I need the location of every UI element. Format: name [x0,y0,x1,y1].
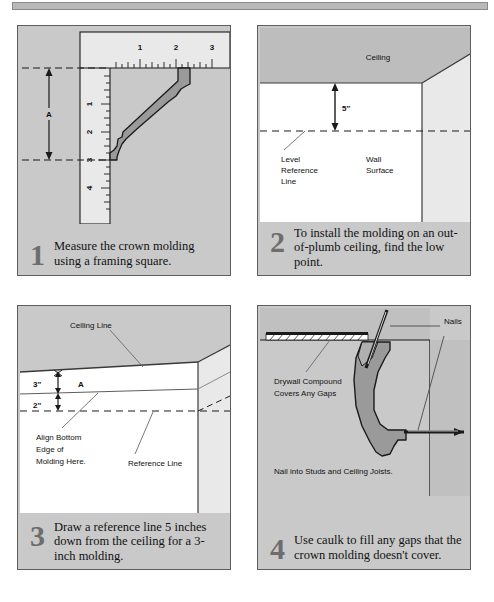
align-note-line-3: Molding Here. [36,457,86,466]
dimension-5in-label: 5" [342,104,350,113]
caption-text-2: To install the molding on an out-of-plum… [266,226,462,270]
ruler-v-tick-2: 2 [85,129,94,134]
drywall-note-line-2: Covers Any Gaps [274,389,336,398]
ruler-v-tick-1: 1 [85,101,94,106]
level-ref-line-label-1: Level [281,155,300,164]
illustration-page: 1 2 3 [0,0,494,602]
align-note-line-1: Align Bottom [36,433,82,442]
room-corner-diagram: Ceiling 5" Level Reference Line Wall Sur… [258,26,470,224]
panel-step-2: Ceiling 5" Level Reference Line Wall Sur… [257,25,471,276]
ruler-h-tick-1: 1 [138,43,143,52]
panel-3-artwork: Ceiling Line 3" [18,306,230,513]
panel-2-artwork: Ceiling 5" Level Reference Line Wall Sur… [258,26,470,224]
step-number-2: 2 [270,227,285,256]
dimension-a-label: A [46,110,52,119]
nail-studs-note: Nail into Studs and Ceiling Joists. [274,467,393,476]
molding-installation-diagram: Nails Drywall Compound Covers Any Gaps N… [258,306,470,513]
dimension-3in-label: 3" [33,380,41,389]
step-number-4: 4 [270,534,285,563]
panel-3-caption: 3 Draw a reference line 5 inches down fr… [18,516,230,570]
front-wall-surface [260,83,422,224]
panel-step-3: Ceiling Line 3" [17,305,231,570]
return-wall-surface [422,54,470,224]
ruler-h-tick-3: 3 [210,43,215,52]
panel-4-artwork: Nails Drywall Compound Covers Any Gaps N… [258,306,470,513]
step-number-1: 1 [30,240,45,269]
ruler-v-tick-4: 4 [85,185,94,190]
caption-text-4: Use caulk to fill any gaps that the crow… [266,533,462,562]
level-ref-line-label-2: Reference [281,166,318,175]
top-rule-divider [12,2,488,10]
dimension-a-label-3: A [78,380,84,389]
panel-step-1: 1 2 3 [17,25,231,276]
ceiling-label: Ceiling [366,53,390,62]
dimension-2in-label: 2" [33,401,41,410]
drywall-note-line-1: Drywall Compound [274,377,342,386]
align-note-line-2: Edge of [36,445,64,454]
reference-line-diagram: Ceiling Line 3" [18,306,230,513]
drywall-compound-hatch [266,332,368,340]
ceiling-line-label: Ceiling Line [70,321,112,330]
return-wall-surface [198,345,230,513]
step-number-3: 3 [30,521,45,550]
reference-line-label: Reference Line [128,459,183,468]
wall-surface-label-2: Surface [366,166,394,175]
framing-square-diagram: 1 2 3 [18,26,230,224]
panel-2-caption: 2 To install the molding on an out-of-pl… [258,222,470,276]
panel-1-caption: 1 Measure the crown molding using a fram… [18,235,230,275]
wall-surface-label-1: Wall [366,155,381,164]
panel-step-4: Nails Drywall Compound Covers Any Gaps N… [257,305,471,570]
level-ref-line-label-3: Line [281,177,297,186]
nails-label: Nails [444,317,462,326]
caption-text-3: Draw a reference line 5 inches down from… [26,520,222,564]
panel-4-caption: 4 Use caulk to fill any gaps that the cr… [258,529,470,569]
caption-text-1: Measure the crown molding using a framin… [26,239,222,268]
ruler-h-tick-2: 2 [174,43,179,52]
panel-1-artwork: 1 2 3 [18,26,230,224]
